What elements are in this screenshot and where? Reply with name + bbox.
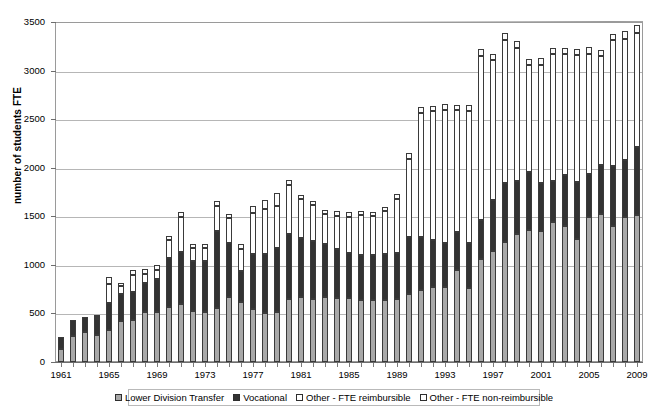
bar-1979[interactable] (274, 22, 281, 362)
bar-1967[interactable] (130, 22, 137, 362)
legend-item-other-fte-non-reimbursible[interactable]: Other - FTE non-reimbursible (420, 393, 554, 403)
bar-1983[interactable] (322, 22, 329, 362)
bar-1977[interactable] (250, 22, 257, 362)
bar-1966[interactable] (118, 22, 125, 362)
bar-segment-0 (634, 215, 641, 362)
bar-1981[interactable] (298, 22, 305, 362)
bar-2000[interactable] (526, 22, 533, 362)
bar-1994[interactable] (454, 22, 461, 362)
bar-1971[interactable] (178, 22, 185, 362)
bar-segment-1 (94, 319, 101, 336)
x-axis-tick-mark (361, 363, 362, 367)
bar-1997[interactable] (490, 22, 497, 362)
bar-segment-0 (106, 330, 113, 362)
x-axis-tick-label: 1981 (290, 370, 311, 380)
legend-swatch-icon (233, 394, 240, 401)
legend-item-other-fte-reimbursible[interactable]: Other - FTE reimbursible (296, 393, 411, 403)
bar-segment-3 (490, 54, 497, 60)
bar-segment-3 (238, 244, 245, 249)
bar-1993[interactable] (442, 22, 449, 362)
bar-segment-2 (130, 275, 137, 292)
bar-1963[interactable] (82, 22, 89, 362)
bar-segment-3 (370, 212, 377, 216)
x-axis-tick-mark (97, 363, 98, 367)
bar-segment-0 (406, 294, 413, 362)
legend-item-vocational[interactable]: Vocational (233, 393, 287, 403)
bar-1970[interactable] (166, 22, 173, 362)
bar-1987[interactable] (370, 22, 377, 362)
bar-1961[interactable] (58, 22, 65, 362)
bar-segment-2 (238, 249, 245, 271)
bar-1984[interactable] (334, 22, 341, 362)
bar-segment-0 (466, 288, 473, 362)
bar-1982[interactable] (310, 22, 317, 362)
bar-segment-2 (418, 113, 425, 237)
x-axis-tick-mark (265, 363, 266, 367)
bar-segment-1 (166, 258, 173, 307)
bar-segment-2 (394, 199, 401, 253)
bar-1992[interactable] (430, 22, 437, 362)
bar-segment-1 (550, 181, 557, 222)
bar-1962[interactable] (70, 22, 77, 362)
bar-segment-1 (622, 160, 629, 217)
bar-1996[interactable] (478, 22, 485, 362)
bar-segment-1 (154, 279, 161, 312)
bar-1978[interactable] (262, 22, 269, 362)
bar-segment-3 (442, 104, 449, 110)
bar-2005[interactable] (586, 22, 593, 362)
x-axis-tick-mark (445, 363, 446, 367)
bar-2009[interactable] (634, 22, 641, 362)
bar-1976[interactable] (238, 22, 245, 362)
x-axis-tick-mark (121, 363, 122, 367)
bar-2001[interactable] (538, 22, 545, 362)
bar-segment-0 (298, 297, 305, 362)
bar-1973[interactable] (202, 22, 209, 362)
bar-segment-0 (250, 309, 257, 362)
bar-1968[interactable] (142, 22, 149, 362)
bar-2003[interactable] (562, 22, 569, 362)
bar-segment-1 (70, 320, 77, 336)
bar-1991[interactable] (418, 22, 425, 362)
bar-1969[interactable] (154, 22, 161, 362)
bar-1985[interactable] (346, 22, 353, 362)
bar-1989[interactable] (394, 22, 401, 362)
x-axis-tick-mark (349, 363, 350, 367)
bar-segment-3 (214, 201, 221, 206)
bar-1974[interactable] (214, 22, 221, 362)
bar-segment-0 (214, 308, 221, 362)
bar-1964[interactable] (94, 22, 101, 362)
x-axis-tick-label: 1989 (386, 370, 407, 380)
bar-1972[interactable] (190, 22, 197, 362)
bar-1999[interactable] (514, 22, 521, 362)
bar-2004[interactable] (574, 22, 581, 362)
bar-1998[interactable] (502, 22, 509, 362)
bar-1995[interactable] (466, 22, 473, 362)
bar-segment-3 (94, 315, 101, 317)
bar-2002[interactable] (550, 22, 557, 362)
bar-2008[interactable] (622, 22, 629, 362)
bar-segment-2 (466, 111, 473, 243)
bar-1965[interactable] (106, 22, 113, 362)
bar-1980[interactable] (286, 22, 293, 362)
bar-segment-0 (370, 300, 377, 362)
bar-1988[interactable] (382, 22, 389, 362)
x-axis-tick-mark (577, 363, 578, 367)
bar-1975[interactable] (226, 22, 233, 362)
bar-1986[interactable] (358, 22, 365, 362)
x-axis-tick-mark (253, 363, 254, 367)
bar-segment-3 (286, 180, 293, 185)
bar-2007[interactable] (610, 22, 617, 362)
legend-item-lower-division-transfer[interactable]: Lower Division Transfer (115, 393, 224, 403)
bar-segment-1 (118, 294, 125, 321)
x-axis-tick-mark (61, 363, 62, 367)
bar-2006[interactable] (598, 22, 605, 362)
bar-segment-2 (346, 217, 353, 253)
x-axis-tick-mark (517, 363, 518, 367)
bar-segment-2 (274, 206, 281, 248)
y-axis-tick-label: 2500 (24, 114, 45, 124)
x-axis-tick-mark (313, 363, 314, 367)
bar-segment-0 (550, 222, 557, 362)
bar-1990[interactable] (406, 22, 413, 362)
x-axis-tick-label: 1977 (242, 370, 263, 380)
bar-segment-0 (382, 300, 389, 362)
